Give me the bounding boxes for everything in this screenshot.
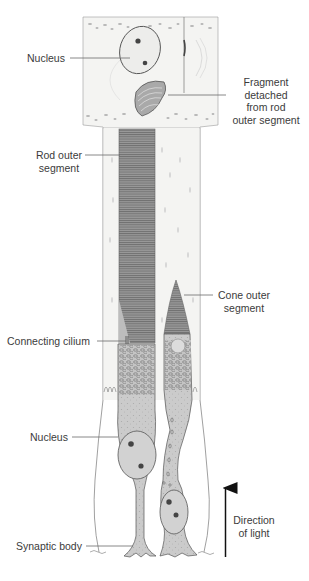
label-direction-line2: of light [228, 527, 280, 540]
label-direction-line1: Direction [228, 514, 280, 527]
rod-nucleus [118, 431, 156, 479]
cone-nucleus [160, 490, 188, 534]
label-direction-of-light: Direction of light [228, 514, 280, 539]
label-fragment-line4: outer segment [226, 114, 306, 127]
label-cone-outer-segment-line1: Cone outer [213, 289, 275, 302]
rod-outer-segment [119, 129, 155, 343]
label-fragment-line3: from rod [226, 101, 306, 114]
label-synaptic-body: Synaptic body [16, 540, 82, 553]
label-rod-outer-segment-line2: segment [33, 162, 85, 175]
label-cone-outer-segment: Cone outer segment [213, 289, 275, 314]
label-cone-outer-segment-line2: segment [213, 302, 275, 315]
label-fragment-line1: Fragment [226, 76, 306, 89]
label-fragment: Fragment detached from rod outer segment [226, 76, 306, 126]
label-nucleus-bottom: Nucleus [30, 431, 68, 444]
label-fragment-line2: detached [226, 89, 306, 102]
label-connecting-cilium: Connecting cilium [7, 335, 90, 348]
label-rod-outer-segment: Rod outer segment [33, 149, 85, 174]
label-nucleus-top: Nucleus [27, 52, 65, 65]
rod-cell [118, 129, 156, 557]
photoreceptor-diagram: Nucleus Fragment detached from rod outer… [0, 0, 309, 581]
label-rod-outer-segment-line1: Rod outer [33, 149, 85, 162]
